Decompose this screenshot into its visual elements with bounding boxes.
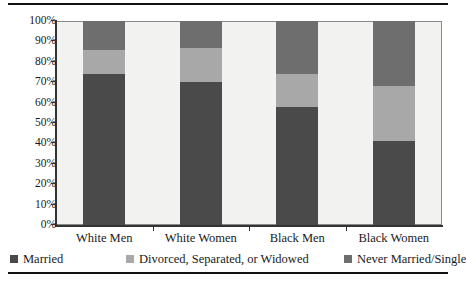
legend-label: Never Married/Single (357, 252, 466, 266)
legend-item-never-married-single[interactable]: Never Married/Single (344, 252, 466, 266)
bar-segment-never-married-single[interactable] (276, 21, 318, 74)
stacked-bar (373, 21, 415, 225)
y-axis-tick-text: 30% (8, 158, 56, 170)
bar-group-white-women[interactable] (180, 21, 222, 225)
bar-group-black-men[interactable] (276, 21, 318, 225)
bar-segment-divorced-separated-or-widowed[interactable] (373, 86, 415, 141)
bar-segment-never-married-single[interactable] (83, 21, 125, 50)
stacked-bar (83, 21, 125, 225)
y-axis-tick-label: 60% (0, 97, 56, 109)
y-axis-tick-text: 60% (8, 97, 56, 109)
bar-series-container (56, 21, 442, 225)
x-axis-label-black-men: Black Men (249, 231, 346, 245)
x-axis-label-white-women: White Women (153, 231, 250, 245)
legend-swatch-icon (10, 255, 18, 263)
y-axis-tick-label: 0% (0, 219, 56, 231)
y-axis-tick-text: 20% (8, 178, 56, 190)
legend-swatch-icon (126, 255, 134, 263)
y-axis-tick-label: 30% (0, 158, 56, 170)
y-axis-tick-label: 80% (0, 56, 56, 68)
y-axis-tick-label: 100% (0, 15, 56, 27)
bar-segment-divorced-separated-or-widowed[interactable] (276, 74, 318, 107)
y-axis-ticks: 100%90%80%70%60%50%40%30%20%10%0% (0, 0, 56, 282)
y-axis-tick-label: 40% (0, 137, 56, 149)
bar-group-white-men[interactable] (83, 21, 125, 225)
y-axis-tick-label: 20% (0, 178, 56, 190)
bar-segment-divorced-separated-or-widowed[interactable] (83, 50, 125, 74)
stacked-bar (276, 21, 318, 225)
chart-legend: MarriedDivorced, Separated, or WidowedNe… (8, 252, 448, 270)
y-axis-tick-text: 10% (8, 199, 56, 211)
bar-segment-married[interactable] (276, 107, 318, 225)
x-axis-label-black-women: Black Women (346, 231, 443, 245)
y-axis-tick-text: 90% (8, 35, 56, 47)
y-axis-tick-label: 50% (0, 117, 56, 129)
top-rule (8, 3, 448, 5)
bottom-rule (8, 272, 448, 274)
bar-segment-married[interactable] (373, 141, 415, 225)
legend-label: Divorced, Separated, or Widowed (139, 252, 309, 266)
y-axis-tick-text: 100% (8, 15, 56, 27)
y-axis-tick-text: 40% (8, 137, 56, 149)
legend-item-divorced-separated-or-widowed[interactable]: Divorced, Separated, or Widowed (126, 252, 309, 266)
x-axis-label-white-men: White Men (56, 231, 153, 245)
bar-segment-divorced-separated-or-widowed[interactable] (180, 48, 222, 83)
y-axis-tick-label: 10% (0, 199, 56, 211)
stacked-bar (180, 21, 222, 225)
legend-label: Married (23, 252, 63, 266)
bar-segment-married[interactable] (180, 82, 222, 225)
legend-item-married[interactable]: Married (10, 252, 63, 266)
y-axis-tick-text: 50% (8, 117, 56, 129)
y-axis-tick-text: 0% (8, 219, 56, 231)
legend-swatch-icon (344, 255, 352, 263)
bar-group-black-women[interactable] (373, 21, 415, 225)
bar-segment-never-married-single[interactable] (180, 21, 222, 48)
bar-segment-married[interactable] (83, 74, 125, 225)
y-axis-tick-text: 80% (8, 56, 56, 68)
y-axis-tick-text: 70% (8, 76, 56, 88)
y-axis-tick-label: 90% (0, 35, 56, 47)
y-axis-tick-label: 70% (0, 76, 56, 88)
bar-segment-never-married-single[interactable] (373, 21, 415, 86)
